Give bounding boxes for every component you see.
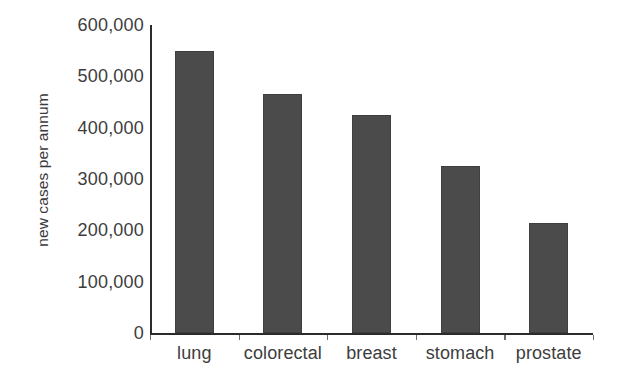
y-axis-tick-label: 100,000: [58, 273, 144, 291]
y-axis-title: new cases per annum: [30, 20, 56, 320]
bar: [441, 166, 480, 333]
y-axis-tick-label: 0: [58, 324, 144, 342]
bar: [529, 223, 568, 333]
bar-chart: new cases per annum 0100,000200,000300,0…: [0, 0, 625, 392]
x-axis-tick: [416, 335, 417, 340]
plot-area: [150, 25, 593, 333]
x-axis-category-labels: lungcolorectalbreaststomachprostate: [150, 344, 593, 374]
x-axis-category-label: prostate: [516, 344, 582, 364]
y-axis-tick-labels: 0100,000200,000300,000400,000500,000600,…: [58, 0, 144, 392]
y-axis-tick-label: 600,000: [58, 16, 144, 34]
x-axis-line: [150, 333, 593, 335]
y-axis-tick-label: 200,000: [58, 221, 144, 239]
x-axis-category-label: breast: [346, 344, 397, 364]
x-axis-tick: [504, 335, 505, 340]
y-axis-tick-label: 400,000: [58, 119, 144, 137]
y-axis-tick-label: 300,000: [58, 170, 144, 188]
y-axis-tick-label: 500,000: [58, 67, 144, 85]
x-axis-category-label: stomach: [426, 344, 495, 364]
bar: [352, 115, 391, 333]
x-axis-tick: [327, 335, 328, 340]
x-axis-tick: [150, 335, 151, 340]
y-axis-line: [150, 25, 152, 333]
bar: [175, 51, 214, 333]
x-axis-category-label: colorectal: [244, 344, 322, 364]
x-axis-tick: [239, 335, 240, 340]
x-axis-tick: [593, 335, 594, 340]
bar: [263, 94, 302, 333]
x-axis-category-label: lung: [177, 344, 211, 364]
